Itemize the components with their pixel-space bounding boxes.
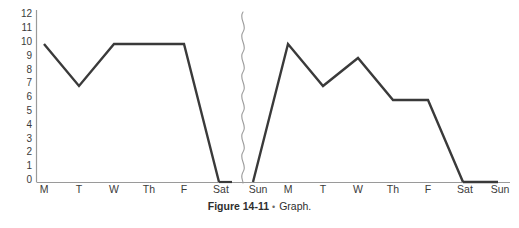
y-tick-label: 4 xyxy=(26,119,32,130)
y-tick-label: 5 xyxy=(26,105,32,116)
y-tick-label: 0 xyxy=(26,174,32,185)
x-tick-label: F xyxy=(181,183,187,195)
x-tick-label: W xyxy=(353,183,363,195)
y-tick-label: 1 xyxy=(26,160,32,171)
y-tick-label: 12 xyxy=(21,8,33,19)
x-tick-label: M xyxy=(40,183,49,195)
x-tick-label: Sat xyxy=(213,183,229,195)
figure-graph: 12 11 10 9 8 7 6 5 4 3 2 1 0 xyxy=(0,0,519,228)
y-tick-label: 2 xyxy=(26,146,32,157)
y-tick-label: 8 xyxy=(26,64,32,75)
figure-title: Graph. xyxy=(279,200,311,212)
line-chart-svg: 12 11 10 9 8 7 6 5 4 3 2 1 0 xyxy=(0,0,519,196)
y-tick-label: 3 xyxy=(26,133,32,144)
x-tick-label: M xyxy=(284,183,293,195)
x-tick-label: Th xyxy=(387,183,399,195)
figure-caption: Figure 14-11•Graph. xyxy=(0,200,519,212)
data-line-week-2 xyxy=(253,44,463,182)
axis-break-squiggle-icon xyxy=(242,12,245,183)
x-tick-label: W xyxy=(109,183,119,195)
x-tick-label: F xyxy=(425,183,431,195)
x-tick-label: T xyxy=(320,183,327,195)
y-axis-tick-labels: 12 11 10 9 8 7 6 5 4 3 2 1 0 xyxy=(21,8,33,185)
y-tick-label: 7 xyxy=(26,77,32,88)
figure-number: Figure 14-11 xyxy=(208,200,269,212)
y-tick-label: 10 xyxy=(21,36,33,47)
x-tick-label: Sun xyxy=(491,183,510,195)
y-tick-label: 6 xyxy=(26,91,32,102)
x-tick-label: T xyxy=(76,183,83,195)
data-line-week-1 xyxy=(44,44,219,182)
caption-bullet-icon: • xyxy=(272,202,275,212)
x-tick-label: Sun xyxy=(249,183,268,195)
x-tick-label: Th xyxy=(143,183,155,195)
x-tick-label: Sat xyxy=(457,183,473,195)
chart-plot-area: 12 11 10 9 8 7 6 5 4 3 2 1 0 xyxy=(0,0,519,196)
y-tick-label: 9 xyxy=(26,50,32,61)
y-tick-label: 11 xyxy=(22,22,33,33)
x-axis-tick-labels: M T W Th F Sat Sun M T W Th F Sat Sun xyxy=(40,183,510,195)
